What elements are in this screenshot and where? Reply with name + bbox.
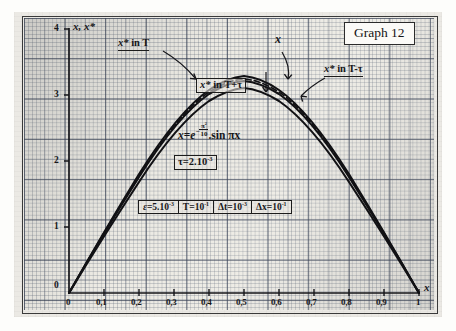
epsilon-exponent: -3 <box>169 201 174 207</box>
curve-label-x-star-in-T-rm: in <box>129 37 143 48</box>
tau-exponent: -3 <box>207 155 212 162</box>
parameter-box: ε=5.10-3 T=10-1 Δt=10-3 Δx=10-1 <box>138 200 292 214</box>
delta-x-mantissa: 10 <box>272 202 282 212</box>
delta-t-symbol: Δt <box>218 202 227 212</box>
x-tick-0_8: 0,8 <box>341 298 352 307</box>
curve-x-star-in-T-minus-tau <box>69 76 419 293</box>
delta-x-exponent: -1 <box>282 201 287 207</box>
main-formula: x=e−π210.sin πx <box>178 122 240 142</box>
leader-x-star-in-T <box>163 51 196 79</box>
T-exponent: -1 <box>204 201 209 207</box>
plot-canvas <box>0 0 456 331</box>
y-tick-1: 1 <box>54 222 59 232</box>
x-tick-1: 1 <box>416 298 420 307</box>
figure-page: x, x* x 4 3 2 1 0 0 0,1 0,2 0,3 0,4 0,5 … <box>0 0 456 331</box>
y-tick-0: 0 <box>54 281 59 291</box>
parameter-cell-delta-t: Δt=10-3 <box>214 201 252 213</box>
leader-x-star-in-T-minus-tau <box>301 78 325 96</box>
y-tick-2: 2 <box>54 156 59 166</box>
curve-label-x-star-in-T-plus-tau: x* in T+τ <box>196 78 246 93</box>
x-tick-0_7: 0,7 <box>306 298 317 307</box>
x-tick-0_2: 0,2 <box>131 298 142 307</box>
parameter-cell-T: T=10-1 <box>179 201 214 213</box>
parameter-cell-delta-x: Δx=10-1 <box>252 201 291 213</box>
axis-lines <box>69 28 420 293</box>
curve-label-x-star-in-T-arg: T <box>142 37 149 48</box>
curve-label-x-star-in-T-minus-tau-rm: in <box>335 63 349 74</box>
x-tick-0_4: 0,4 <box>201 298 212 307</box>
curve-label-x-star-in-T-star: x* <box>118 37 129 48</box>
delta-t-mantissa: 10 <box>233 202 243 212</box>
main-formula-tail: .sin πx <box>208 129 240 141</box>
T-mantissa: 10 <box>195 202 205 212</box>
curve-group <box>69 76 419 293</box>
leader-x-star-in-T-minus-tau-arrowhead <box>301 96 307 102</box>
main-formula-exp-num-power: 2 <box>205 121 207 126</box>
tau-mantissa: 2.10 <box>189 156 207 167</box>
x-tick-0_5: 0,5 <box>236 298 247 307</box>
x-tick-0_1: 0,1 <box>96 298 107 307</box>
epsilon-mantissa: 5.10 <box>152 202 169 212</box>
curve-label-x-star-in-T-plus-tau-arg: T+τ <box>224 79 242 90</box>
curve-label-x-star-in-T-plus-tau-star: x* <box>200 79 211 90</box>
delta-x-symbol: Δx <box>256 202 267 212</box>
x-tick-0: 0 <box>66 298 70 307</box>
curve-label-x-star-in-T: x* in T <box>118 38 149 51</box>
curve-x-star-in-T-plus-tau <box>69 88 419 293</box>
x-tick-0_6: 0,6 <box>271 298 282 307</box>
x-tick-0_3: 0,3 <box>166 298 177 307</box>
figure-title: Graph 12 <box>344 22 415 45</box>
curve-x-exact <box>69 79 419 293</box>
y-tick-3: 3 <box>54 90 59 100</box>
curve-label-x-star-in-T-plus-tau-rm: in <box>211 79 225 90</box>
x-axis-name: x <box>424 282 430 293</box>
curve-x-star-in-T <box>69 81 419 293</box>
curve-label-x-star-in-T-minus-tau-arg: T-τ <box>348 63 362 74</box>
curve-label-x-star-in-T-minus-tau-star: x* <box>324 63 335 74</box>
x-tick-0_9: 0,9 <box>376 298 387 307</box>
curve-label-x-star-in-T-minus-tau: x* in T-τ <box>324 64 363 77</box>
curve-label-x-exact: x <box>275 33 281 45</box>
y-tick-4: 4 <box>54 24 59 34</box>
tau-parameter-box: τ=2.10-3 <box>174 155 217 170</box>
delta-t-exponent: -3 <box>242 201 247 207</box>
parameter-cell-epsilon: ε=5.10-3 <box>139 201 179 213</box>
y-axis-name: x, x* <box>73 21 95 32</box>
